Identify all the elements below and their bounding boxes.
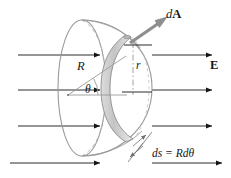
figure-canvas xyxy=(0,0,231,178)
label-ring-radius: r xyxy=(136,60,140,72)
label-electric-field: E xyxy=(210,59,218,72)
ring-band-shaded xyxy=(101,36,133,142)
area-vector-arrow-group xyxy=(130,17,167,43)
label-angle-theta: θ xyxy=(85,84,91,96)
dome-center-point xyxy=(67,94,69,96)
physics-figure-hemisphere-flux: dA E R θ r ds = Rdθ xyxy=(0,0,231,178)
label-area-vector: dA xyxy=(166,8,181,21)
area-vector-arrow xyxy=(130,23,159,43)
label-radius: R xyxy=(77,60,85,73)
dome-rim-ellipse xyxy=(58,20,106,156)
dimension-arrow-lower xyxy=(130,146,143,157)
angle-arc-theta xyxy=(94,79,99,96)
ring-inner-edge xyxy=(131,37,149,139)
label-area-vector-symbol: A xyxy=(172,7,181,21)
label-arc-length: ds = Rdθ xyxy=(152,148,194,160)
ring-area-element-group xyxy=(101,35,149,142)
